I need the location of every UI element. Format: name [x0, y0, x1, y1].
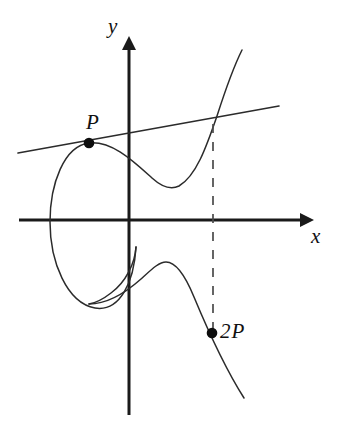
- curve-oval-component: [50, 143, 136, 308]
- curve-upper-branch: [89, 50, 242, 188]
- point-2p-label: 2P: [220, 321, 245, 342]
- point-2p-marker: [207, 328, 218, 339]
- point-p-marker: [84, 138, 95, 149]
- elliptic-curve-figure: y x P 2P: [0, 0, 341, 426]
- y-axis-label: y: [108, 16, 117, 37]
- diagram-canvas: [0, 0, 341, 426]
- y-axis-arrowhead-icon: [122, 36, 136, 50]
- x-axis-label: x: [311, 226, 320, 247]
- tangent-line-through-p: [18, 106, 279, 153]
- point-p-label: P: [86, 112, 99, 133]
